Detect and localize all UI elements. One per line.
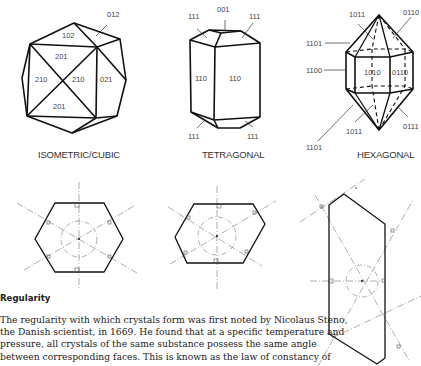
face-label: 201 [55, 52, 68, 61]
face-label: 012 [107, 10, 120, 19]
section-heading: Regularity [0, 293, 50, 303]
face-label: 111 [188, 12, 199, 21]
face-label: 1101 [306, 143, 322, 152]
crystal-caption: HEXAGONAL [357, 149, 414, 160]
crystal-caption: ISOMETRIC/CUBIC [38, 149, 120, 160]
face-label: 210 [35, 75, 48, 84]
paragraph-line: The regularity with which crystals form … [0, 314, 330, 326]
hexagonal-crystal: 1011 0110 1101 1100 1010 0110 1011 0111 … [306, 8, 419, 160]
crystal-figure: 012 102 201 210 210 021 201 ISOMETRIC/CU… [0, 0, 421, 366]
face-label: 0111 [403, 122, 419, 131]
distorted-hexagon-section [168, 186, 276, 290]
face-label: 110 [195, 74, 207, 83]
face-label: 1010 [364, 68, 381, 77]
tetragonal-crystal: 001 111 111 110 110 111 111 TETRAGONAL [188, 5, 264, 160]
face-label: 1011 [346, 127, 362, 136]
face-label: 111 [188, 132, 199, 141]
face-label: 110 [229, 74, 241, 83]
face-label: 021 [100, 75, 113, 84]
hexagon-outline [329, 194, 385, 364]
face-label: 1100 [306, 66, 322, 75]
face-label: 1101 [306, 39, 322, 48]
paragraph-line: pressure, all crystals of the same subst… [0, 338, 330, 350]
face-label: 210 [72, 75, 85, 84]
paragraph-line: the Danish scientist, in 1669. He found … [0, 326, 330, 338]
hexagon-outline [175, 204, 265, 263]
face-label: 0110 [403, 8, 419, 17]
regular-hexagon-section [17, 182, 137, 290]
face-label: 0110 [392, 68, 408, 77]
paragraph-line: between corresponding faces. This is kno… [0, 351, 330, 363]
face-label: 001 [217, 5, 230, 14]
crystal-caption: TETRAGONAL [202, 149, 264, 160]
face-label: 111 [247, 132, 258, 141]
face-label: 102 [62, 31, 75, 40]
face-label: 111 [249, 12, 260, 21]
face-label: 201 [53, 102, 66, 111]
face-label: 1011 [349, 10, 365, 19]
cubic-crystal: 012 102 201 210 210 021 201 ISOMETRIC/CU… [22, 10, 126, 160]
hexagon-outline [35, 203, 123, 272]
section-paragraph: The regularity with which crystals form … [0, 314, 330, 363]
